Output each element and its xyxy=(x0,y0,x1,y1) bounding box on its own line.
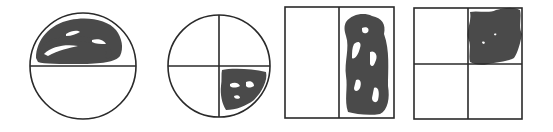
shaded-bottom-right-quarter xyxy=(221,69,267,110)
circle-quarters-model xyxy=(168,15,270,117)
shaded-top-right-quarter xyxy=(468,8,522,65)
rectangle-halves-model xyxy=(285,7,394,118)
square-quarters-model xyxy=(414,8,522,119)
circle-halves-model xyxy=(30,13,136,119)
fraction-models-figure xyxy=(0,0,553,132)
